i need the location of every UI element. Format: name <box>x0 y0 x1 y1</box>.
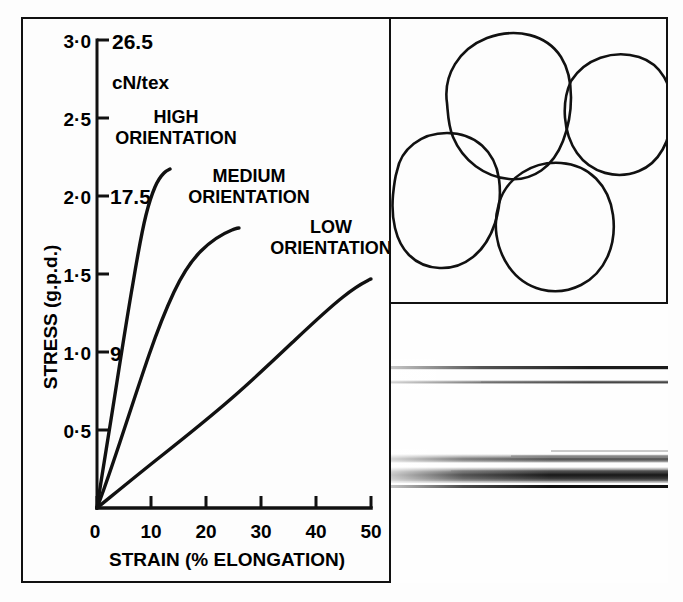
micrograph-description: horizontal dark striations across a pale… <box>0 0 1 1</box>
fibre-longitudinal-panel <box>391 304 668 583</box>
cross-section-svg <box>391 19 668 302</box>
x-tick-label-50: 50 <box>360 521 381 542</box>
figure-root: 3·0 2·5 2·0 1·5 1·0 0·5 0 10 20 30 40 50… <box>0 0 683 602</box>
label-medium-orientation-line1: MEDIUM <box>213 166 286 186</box>
x-tick-label-40: 40 <box>305 521 326 542</box>
fibre-cross-section-3 <box>393 133 500 268</box>
cross-section-shapes <box>393 33 668 291</box>
striation-fade-overlay-bottom <box>391 449 551 489</box>
y-tick-labels: 3·0 2·5 2·0 1·5 1·0 0·5 <box>64 31 92 442</box>
stress-strain-chart-panel: 3·0 2·5 2·0 1·5 1·0 0·5 0 10 20 30 40 50… <box>21 17 389 583</box>
y-tick-label-2-0: 2·0 <box>64 187 91 208</box>
x-tick-label-20: 20 <box>195 521 216 542</box>
x-tick-label-10: 10 <box>140 521 161 542</box>
striation-fade-overlay-top <box>391 359 591 389</box>
cntex-value-17-5: 17.5 <box>110 185 151 208</box>
fibre-cross-section-1 <box>446 33 571 179</box>
y-tick-label-2-5: 2·5 <box>64 109 92 130</box>
chart-svg: 3·0 2·5 2·0 1·5 1·0 0·5 0 10 20 30 40 50… <box>21 17 389 583</box>
x-tick-label-30: 30 <box>250 521 271 542</box>
y-tick-label-1-5: 1·5 <box>64 265 92 286</box>
label-low-orientation-line2: ORIENTATION <box>270 238 389 258</box>
secondary-axis-annotations: 26.5 cN/tex 17.5 9 <box>110 30 169 365</box>
fibre-cross-section-4 <box>496 163 614 291</box>
y-tick-label-0-5: 0·5 <box>64 421 92 442</box>
label-high-orientation-line1: HIGH <box>154 107 199 127</box>
x-tick-label-0: 0 <box>90 521 101 542</box>
fibre-cross-section-2 <box>565 54 668 175</box>
micrograph-svg <box>391 304 668 583</box>
y-tick-label-3-0: 3·0 <box>64 31 91 52</box>
cntex-unit-label: cN/tex <box>112 72 169 93</box>
cross-section-description: four irregular rounded fibre cross secti… <box>0 0 1 1</box>
y-tick-label-1-0: 1·0 <box>64 343 91 364</box>
label-medium-orientation-line2: ORIENTATION <box>188 187 309 207</box>
curve-low-orientation <box>97 279 371 508</box>
label-high-orientation-line2: ORIENTATION <box>115 128 236 148</box>
micrograph-background <box>391 304 668 583</box>
x-tick-labels: 0 10 20 30 40 50 <box>90 521 382 542</box>
y-axis-title: STRESS (g.p.d.) <box>40 245 61 390</box>
x-axis-title: STRAIN (% ELONGATION) <box>109 549 345 570</box>
label-low-orientation-line1: LOW <box>310 217 352 237</box>
fibre-cross-section-panel <box>391 19 668 302</box>
chart-axes <box>97 40 371 508</box>
cntex-value-26-5: 26.5 <box>112 30 153 53</box>
